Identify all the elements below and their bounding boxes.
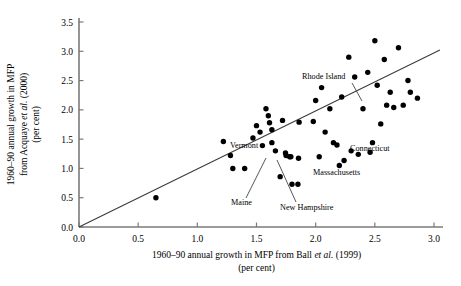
data-point [405,78,410,83]
data-point [360,106,365,111]
vermont-point [283,150,288,155]
maine-point [288,154,293,159]
data-point [352,74,357,79]
x-tick-label: 3.0 [428,234,440,244]
data-point [230,166,235,171]
data-point [267,120,272,125]
data-point [266,113,271,118]
data-point [384,102,389,107]
massachusetts-point [341,158,346,163]
data-point [401,102,406,107]
data-point [153,195,158,200]
data-point [277,174,282,179]
y-tick-label: 0.5 [61,193,73,203]
y-tick-label: 1.0 [61,164,73,174]
data-point [322,129,327,134]
x-tick-label: 2.0 [310,234,322,244]
data-point [250,135,255,140]
new-hampshire-leader [277,160,296,202]
y-tick-label: 1.5 [61,135,73,145]
data-point [313,98,318,103]
data-point [339,94,344,99]
data-point [242,166,247,171]
data-point [296,119,301,124]
y-axis-title-line1: 1960–90 annual growth in MFP [6,64,16,185]
data-point [415,95,420,100]
data-point [391,105,396,110]
data-point [260,143,265,148]
data-point [408,90,413,95]
data-point [396,45,401,50]
x-tick-label: 1.0 [191,234,203,244]
data-point [269,140,274,145]
data-point [263,106,268,111]
y-tick-label: 2.5 [61,76,73,86]
massachusetts-label: Massachusetts [313,168,360,177]
data-point [311,119,316,124]
data-point [388,90,393,95]
data-point [295,182,300,187]
data-point [327,106,332,111]
data-point [221,139,226,144]
data-point [378,121,383,126]
y-axis-title-line2: from Acquaye et al. (2000) [19,73,30,176]
x-tick-label: 0.5 [132,234,144,244]
data-point [319,85,324,90]
y-tick-label: 3.0 [61,47,73,57]
vermont-label: Vermont [230,141,259,150]
x-tick-label: 1.5 [251,234,263,244]
y-tick-label: 0.0 [61,223,73,233]
x-tick-label: 2.5 [369,234,381,244]
y-tick-label: 3.5 [61,18,73,28]
y-tick-label: 2.0 [61,105,73,115]
data-point [280,118,285,123]
x-axis-title-line1: 1960–90 annual growth in MFP from Ball e… [152,250,361,261]
data-point [254,123,259,128]
maine-label: Maine [231,198,252,207]
data-point [334,142,339,147]
data-point [346,54,351,59]
maine-leader [246,158,266,198]
y-axis-title-line3: (per cent) [31,106,42,143]
data-point [273,148,278,153]
new-hampshire-point [296,155,301,160]
data-point [372,38,377,43]
data-point [257,129,262,134]
chart-canvas: 0.00.51.01.52.02.53.00.00.51.01.52.02.53… [0,0,461,286]
scatter-plot-figure: 0.00.51.01.52.02.53.00.00.51.01.52.02.53… [0,0,461,286]
connecticut-label: Connecticut [350,144,390,153]
x-tick-label: 0.0 [73,234,85,244]
new-hampshire-label: New Hampshire [280,203,334,212]
rhode-island-label: Rhode Island [302,72,345,81]
data-point [228,153,233,158]
data-point [317,154,322,159]
data-point [289,182,294,187]
data-point [365,70,370,75]
data-point [375,83,380,88]
data-point [269,127,274,132]
x-axis-title-line2: (per cent) [238,263,275,274]
data-point [382,57,387,62]
regression-line [79,50,440,227]
